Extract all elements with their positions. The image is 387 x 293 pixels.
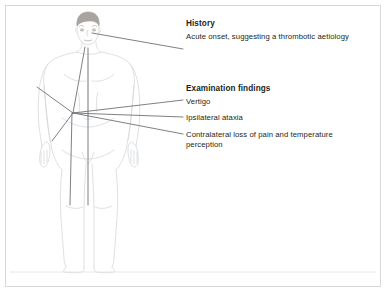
body-outline-group (38, 42, 140, 273)
torso-right-outline (101, 52, 134, 170)
examination-finding-item: Vertigo (186, 97, 210, 107)
right-leg-inner (92, 164, 94, 267)
leader-line-upper-left-radius (37, 87, 73, 113)
left-arm-outer (38, 64, 48, 146)
examination-finding-item: Contralateral loss of pain and temperatu… (186, 130, 371, 151)
examination-findings-heading: Examination findings (186, 84, 270, 94)
right-leg-outer (112, 170, 118, 267)
leader-line-downward-radius (70, 113, 72, 205)
left-pectoral (64, 74, 86, 81)
left-abdominal (78, 92, 80, 112)
examination-finding-item: Ipsilateral ataxia (186, 113, 243, 123)
leader-line-lower-left-radius (52, 113, 73, 141)
left-leg-inner (84, 164, 86, 267)
left-pupil (81, 29, 82, 30)
right-abdominal (96, 92, 98, 112)
left-knee (66, 206, 83, 208)
clavicle-line (77, 52, 101, 54)
leader-line-history (92, 33, 183, 49)
leader-line-vertigo (73, 100, 183, 113)
right-hand-fingers (131, 150, 137, 164)
right-knee (95, 206, 112, 208)
left-hand-fingers (41, 150, 47, 164)
clinical-figure-panel: History Acute onset, suggesting a thromb… (0, 0, 387, 293)
leader-lines-group (37, 33, 183, 205)
right-pupil (93, 29, 94, 30)
right-pectoral (92, 74, 114, 81)
history-body-text: Acute onset, suggesting a thrombotic aet… (186, 32, 366, 42)
history-heading: History (186, 19, 215, 29)
head-group (76, 12, 101, 45)
left-leg-outer (60, 170, 66, 267)
torso-left-outline (44, 52, 77, 170)
